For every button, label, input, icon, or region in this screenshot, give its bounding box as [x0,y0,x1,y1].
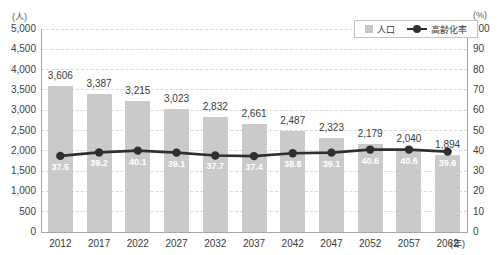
aging-rate-point-label: 37.4 [234,163,274,172]
line-marker [366,145,374,153]
left-axis-tick: 2,500 [2,126,36,136]
aging-rate-line [41,29,467,232]
bottom-axis-line [41,232,468,233]
left-axis-tick: 0 [2,227,36,237]
x-axis-tick: 2022 [118,239,158,249]
right-axis-tick: 70 [473,85,499,95]
x-axis-tick: 2017 [79,239,119,249]
legend-label-population: 人口 [377,23,395,36]
line-marker [56,152,64,160]
aging-rate-point-label: 39.1 [311,160,351,169]
bar-swatch-icon [365,25,373,33]
left-axis-tick: 5,000 [2,24,36,34]
aging-rate-point-label: 38.8 [273,160,313,169]
right-axis-tick: 30 [473,166,499,176]
left-axis-tick: 1,500 [2,166,36,176]
aging-rate-point-label: 39.1 [157,160,197,169]
line-marker [289,149,297,157]
left-axis-tick: 1,000 [2,186,36,196]
line-marker [405,145,413,153]
legend-item-aging-rate: 高齢化率 [407,23,467,36]
right-axis-tick: 90 [473,44,499,54]
x-axis-tick: 2057 [389,239,429,249]
left-axis-tick: 2,000 [2,146,36,156]
line-marker [172,148,180,156]
right-axis-line [467,29,468,232]
right-axis-tick: 0 [473,227,499,237]
right-axis-tick: 60 [473,105,499,115]
left-axis-tick: 4,500 [2,44,36,54]
left-axis-tick: 4,000 [2,65,36,75]
line-marker [95,148,103,156]
right-axis-tick: 40 [473,146,499,156]
chart-legend: 人口 高齢化率 [354,20,478,38]
left-axis-tick: 500 [2,207,36,217]
left-axis-unit-label: (人) [12,10,27,23]
aging-rate-point-label: 40.6 [350,157,390,166]
line-marker-swatch-icon [407,25,427,33]
aging-rate-point-label: 39.6 [428,159,468,168]
x-axis-tick: 2012 [40,239,80,249]
line-marker [134,146,142,154]
x-axis-tick: 2027 [157,239,197,249]
line-marker [250,152,258,160]
x-axis-tick: 2042 [273,239,313,249]
right-axis-tick: 20 [473,186,499,196]
x-axis-tick: 2052 [350,239,390,249]
legend-label-aging-rate: 高齢化率 [431,23,467,36]
left-axis-tick: 3,000 [2,105,36,115]
x-axis-tick: 2032 [195,239,235,249]
right-axis-tick: 80 [473,65,499,75]
line-marker [443,147,451,155]
population-aging-chart: (人) (%) 00500101,000201,500302,000402,50… [0,0,499,255]
left-axis-tick: 3,500 [2,85,36,95]
aging-rate-point-label: 37.5 [40,163,80,172]
x-axis-tick: 2037 [234,239,274,249]
aging-rate-point-label: 40.6 [389,157,429,166]
x-axis-unit-label: (年) [450,239,465,249]
line-marker [327,148,335,156]
right-axis-unit-label: (%) [473,10,487,20]
legend-item-population: 人口 [365,23,395,36]
right-axis-tick: 10 [473,207,499,217]
aging-rate-point-label: 37.7 [195,162,235,171]
line-marker [211,151,219,159]
x-axis-tick: 2047 [311,239,351,249]
aging-rate-point-label: 40.1 [118,158,158,167]
aging-rate-point-label: 39.2 [79,159,119,168]
right-axis-tick: 50 [473,126,499,136]
